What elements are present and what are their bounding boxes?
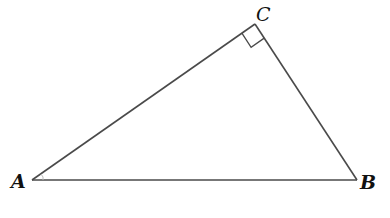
- side-ac: [32, 24, 255, 180]
- vertex-label-b: B: [360, 173, 376, 192]
- right-angle-marker-icon: [242, 33, 264, 47]
- angle-mark-a-icon: [41, 174, 43, 180]
- triangle-diagram: [0, 0, 390, 218]
- vertex-label-c: C: [256, 5, 271, 24]
- side-cb: [255, 24, 357, 180]
- vertex-label-a: A: [11, 172, 26, 191]
